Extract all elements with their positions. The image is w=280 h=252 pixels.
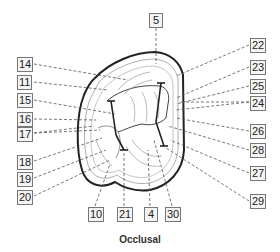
callout-label: 30 (165, 207, 181, 222)
callout-label: 4 (144, 207, 158, 222)
callout-label: 28 (250, 143, 266, 158)
callout-label: 17 (17, 127, 33, 142)
callout-label: 25 (250, 79, 266, 94)
callout-label: 22 (250, 38, 266, 53)
leader-lines (34, 28, 249, 206)
callout-label: 5 (149, 13, 163, 28)
tooth-illustration (0, 0, 280, 252)
callout-label: 14 (17, 57, 33, 72)
callout-label: 19 (17, 172, 33, 187)
callout-label: 20 (17, 190, 33, 205)
callout-label: 11 (17, 75, 32, 90)
callout-label: 24 (250, 96, 266, 111)
callout-label: 27 (250, 166, 266, 181)
callout-label: 21 (117, 207, 133, 222)
figure-caption: Occlusal (0, 234, 280, 245)
i-beam-markers (107, 83, 168, 150)
callout-label: 26 (250, 124, 266, 139)
callout-label: 18 (17, 155, 33, 170)
callout-label: 16 (17, 112, 33, 127)
callout-label: 23 (250, 60, 266, 75)
occlusal-tooth-diagram: 14 11 15 16 17 18 19 20 5 22 23 25 24 26… (0, 0, 280, 252)
callout-label: 29 (250, 194, 266, 209)
callout-label: 15 (17, 93, 33, 108)
callout-label: 10 (88, 207, 104, 222)
